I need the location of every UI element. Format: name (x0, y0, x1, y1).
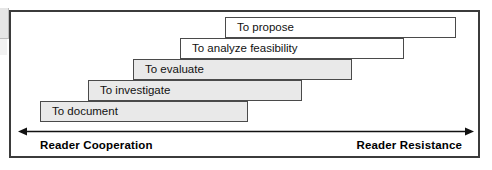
axis-label-reader-resistance: Reader Resistance (357, 139, 462, 151)
axis-label-reader-cooperation: Reader Cooperation (40, 139, 153, 151)
double-arrow-icon (18, 124, 474, 140)
step-box-to-evaluate[interactable]: To evaluate (133, 59, 352, 80)
step-box-to-investigate[interactable]: To investigate (88, 80, 302, 101)
continuum-axis (18, 124, 474, 140)
step-box-to-analyze-feasibility[interactable]: To analyze feasibility (180, 38, 404, 59)
step-box-to-propose[interactable]: To propose (225, 17, 456, 38)
step-box-to-document[interactable]: To document (40, 101, 248, 122)
figure-root: To document To investigate To evaluate T… (0, 0, 492, 170)
scan-artifact (0, 8, 9, 39)
scan-artifact-secondary (0, 39, 7, 55)
